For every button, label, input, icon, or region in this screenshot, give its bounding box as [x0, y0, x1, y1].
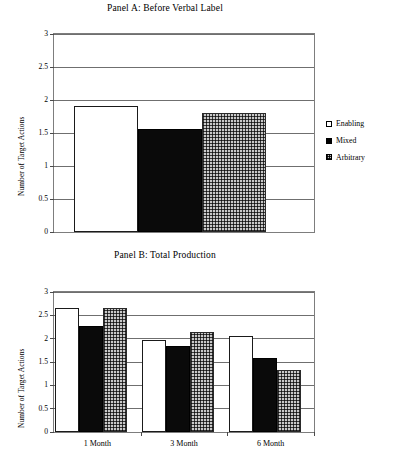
- bar-arbitrary-3-month: [190, 332, 214, 432]
- gridline: [54, 100, 314, 101]
- y-axis-tick: [50, 34, 54, 35]
- x-axis-tick-label: 3 Month: [170, 439, 197, 448]
- legend-item-mixed: Mixed: [326, 137, 365, 145]
- y-axis-tick: [50, 232, 54, 233]
- panel-a-plot-area: 00.511.522.53: [53, 33, 315, 233]
- x-axis-tick-label: 6 Month: [257, 439, 284, 448]
- legend-label-mixed: Mixed: [336, 137, 356, 145]
- bar-mixed-3-month: [166, 346, 190, 432]
- panel-b-plot-area: 00.511.522.531 Month3 Month6 Month: [53, 291, 315, 433]
- y-axis-tick: [50, 292, 54, 293]
- y-axis-tick: [50, 362, 54, 363]
- bar-mixed-6-month: [253, 358, 277, 432]
- y-axis-tick-label: 2: [44, 96, 48, 104]
- y-axis-tick-label: 1: [44, 162, 48, 170]
- y-axis-tick-label: 0: [44, 228, 48, 236]
- panel-a-y-axis-label: Number of Target Actions: [17, 117, 26, 196]
- x-axis-tick: [141, 432, 142, 436]
- y-axis-tick: [50, 133, 54, 134]
- panel-a: Panel A: Before Verbal Label Number of T…: [0, 0, 413, 248]
- bar-enabling-6-month: [229, 336, 253, 432]
- x-axis-tick-label: 1 Month: [84, 439, 111, 448]
- y-axis-tick: [50, 199, 54, 200]
- y-axis-tick-label: 2: [44, 335, 48, 343]
- y-axis-tick: [50, 338, 54, 339]
- y-axis-tick-label: 1.5: [39, 358, 49, 366]
- y-axis-tick-label: 3: [44, 288, 48, 296]
- bar-arbitrary-1-month: [103, 308, 127, 432]
- panel-a-legend: Enabling Mixed Arbitrary: [326, 120, 365, 170]
- y-axis-tick: [50, 67, 54, 68]
- y-axis-tick: [50, 385, 54, 386]
- y-axis-tick-label: 0: [44, 428, 48, 436]
- legend-item-enabling: Enabling: [326, 120, 365, 128]
- y-axis-tick-label: 1: [44, 382, 48, 390]
- bar-mixed-1-month: [79, 326, 103, 432]
- y-axis-tick-label: 0.5: [39, 195, 49, 203]
- y-axis-tick-label: 0.5: [39, 405, 49, 413]
- bar-arbitrary: [202, 113, 266, 232]
- bar-enabling-3-month: [142, 340, 166, 432]
- y-axis-tick: [50, 432, 54, 433]
- bar-enabling-1-month: [55, 308, 79, 432]
- x-axis-tick: [227, 432, 228, 436]
- legend-item-arbitrary: Arbitrary: [326, 154, 365, 162]
- gridline: [54, 315, 314, 316]
- crosshatch-square-icon: [326, 154, 332, 160]
- filled-square-icon: [326, 138, 332, 144]
- y-axis-tick-label: 1.5: [39, 129, 49, 137]
- bar-mixed: [138, 129, 202, 232]
- gridline: [54, 67, 314, 68]
- gridline: [54, 34, 314, 35]
- y-axis-tick: [50, 100, 54, 101]
- gridline: [54, 292, 314, 293]
- legend-label-enabling: Enabling: [336, 120, 364, 128]
- y-axis-tick: [50, 408, 54, 409]
- bar-enabling: [74, 106, 138, 232]
- hollow-square-icon: [326, 121, 332, 127]
- legend-label-arbitrary: Arbitrary: [336, 154, 365, 162]
- y-axis-tick: [50, 166, 54, 167]
- y-axis-tick: [50, 315, 54, 316]
- x-axis-tick: [314, 432, 315, 436]
- y-axis-tick-label: 3: [44, 30, 48, 38]
- bar-arbitrary-6-month: [277, 370, 301, 432]
- y-axis-tick-label: 2.5: [39, 63, 49, 71]
- figure-root: Panel A: Before Verbal Label Number of T…: [0, 0, 413, 460]
- panel-b-y-axis-label: Number of Target Actions: [17, 349, 26, 428]
- panel-b-title: Panel B: Total Production: [0, 250, 330, 260]
- panel-a-title: Panel A: Before Verbal Label: [0, 3, 330, 13]
- y-axis-tick-label: 2.5: [39, 312, 49, 320]
